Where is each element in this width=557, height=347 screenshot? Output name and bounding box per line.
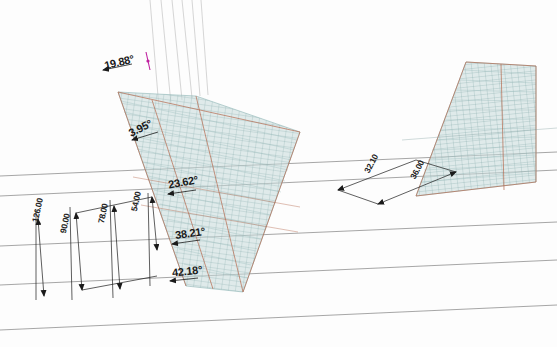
cad-vector-scene (0, 0, 557, 347)
right-wireframe-surface[interactable] (402, 62, 557, 196)
vertical-guide-lines (150, 0, 208, 108)
magenta-marker (146, 52, 150, 70)
cad-drawing-canvas: 19.88° 3.95° 23.62° 38.21° 42.18° 126.00… (0, 0, 557, 347)
